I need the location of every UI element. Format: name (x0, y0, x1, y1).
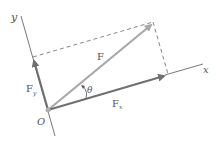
dashed-line-right (153, 22, 168, 74)
origin-point (46, 108, 51, 113)
angle-label: θ (87, 85, 93, 95)
svg-text:F: F (112, 98, 119, 109)
force-label: F (97, 51, 104, 62)
y-axis-label: y (10, 11, 18, 24)
svg-text:y: y (32, 89, 37, 97)
force-diagram: y x F θ O F x F y (0, 0, 216, 145)
fx-label: F x (112, 98, 123, 110)
svg-text:x: x (119, 103, 123, 110)
fy-label: F y (26, 83, 37, 97)
fy-component-vector (34, 61, 48, 110)
force-vector (48, 25, 151, 110)
x-axis (165, 64, 203, 75)
origin-label: O (37, 116, 45, 127)
fx-component-vector (48, 76, 164, 110)
svg-text:F: F (26, 83, 33, 94)
x-axis-label: x (203, 64, 209, 75)
